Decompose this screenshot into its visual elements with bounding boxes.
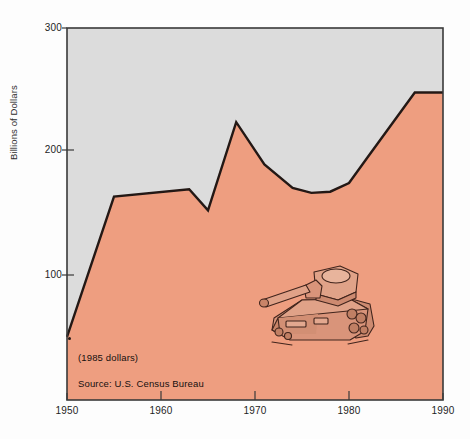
plot-area <box>0 0 470 439</box>
chart-figure: Billions of Dollars 300 200 100 1950 196… <box>0 0 470 439</box>
annotation-source: Source: U.S. Census Bureau <box>78 378 204 389</box>
tank-illustration <box>252 252 378 356</box>
start-value-dot <box>68 337 71 340</box>
annotation-dollars: (1985 dollars) <box>78 352 138 363</box>
